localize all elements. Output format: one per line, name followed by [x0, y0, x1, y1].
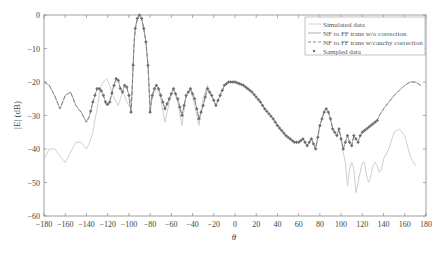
marker-dot [164, 108, 166, 110]
marker-dot [374, 121, 376, 123]
marker-dot [208, 91, 210, 93]
x-tick-label: 20 [252, 220, 260, 229]
marker-dot [109, 101, 111, 103]
marker-dot [183, 104, 185, 106]
legend-entry: NF to FF trans w/cauchy correction [323, 39, 423, 47]
marker-dot [319, 124, 321, 126]
marker-dot [107, 103, 109, 105]
marker-dot [160, 94, 162, 96]
marker-dot [321, 118, 323, 120]
marker-dot [121, 91, 123, 93]
x-tick-label: 80 [316, 220, 324, 229]
marker-dot [359, 135, 361, 137]
marker-dot [278, 127, 280, 129]
marker-dot [270, 115, 272, 117]
marker-dot [315, 148, 317, 150]
marker-dot [302, 138, 304, 140]
x-axis-label: θ [232, 232, 237, 242]
x-tick-label: −20 [208, 220, 221, 229]
marker-dot [219, 94, 221, 96]
marker-dot [181, 114, 183, 116]
marker-dot [253, 93, 255, 95]
marker-dot [168, 98, 170, 100]
marker-dot [225, 83, 227, 85]
marker-dot [283, 132, 285, 134]
marker-dot [372, 123, 374, 125]
marker-dot [251, 91, 253, 93]
marker-dot [189, 88, 191, 90]
marker-dot [298, 141, 300, 143]
marker-dot [128, 94, 130, 96]
marker-dot [185, 94, 187, 96]
marker-dot [221, 89, 223, 91]
marker-dot [376, 119, 378, 121]
marker-dot [194, 98, 196, 100]
marker-dot [196, 108, 198, 110]
marker-dot [153, 88, 155, 90]
x-tick-label: 120 [356, 220, 368, 229]
x-tick-label: 100 [335, 220, 347, 229]
marker-dot [149, 111, 151, 113]
marker-dot [104, 101, 106, 103]
legend-swatch-marker [313, 50, 315, 52]
marker-dot [342, 148, 344, 150]
marker-dot [130, 111, 132, 113]
marker-dot [336, 135, 338, 137]
marker-dot [170, 93, 172, 95]
marker-dot [353, 135, 355, 137]
marker-dot [247, 88, 249, 90]
x-tick-label: 160 [399, 220, 411, 229]
marker-dot [310, 138, 312, 140]
y-tick-label: −20 [27, 78, 40, 87]
marker-dot [289, 138, 291, 140]
marker-dot [92, 101, 94, 103]
marker-dot [155, 84, 157, 86]
marker-dot [338, 128, 340, 130]
marker-dot [344, 141, 346, 143]
marker-dot [217, 99, 219, 101]
x-tick-label: −60 [165, 220, 178, 229]
y-tick-label: −50 [27, 179, 40, 188]
x-tick-label: −80 [144, 220, 157, 229]
x-tick-label: −100 [121, 220, 138, 229]
marker-dot [308, 141, 310, 143]
marker-dot [174, 93, 176, 95]
marker-dot [132, 64, 134, 66]
marker-dot [94, 94, 96, 96]
marker-dot [332, 128, 334, 130]
marker-dot [145, 41, 147, 43]
marker-dot [179, 106, 181, 108]
marker-dot [117, 79, 119, 81]
marker-dot [249, 89, 251, 91]
marker-dot [172, 88, 174, 90]
marker-dot [291, 140, 293, 142]
marker-dot [259, 101, 261, 103]
x-tick-label: 140 [378, 220, 390, 229]
marker-dot [317, 136, 319, 138]
marker-dot [200, 111, 202, 113]
marker-dot [346, 135, 348, 137]
marker-dot [147, 64, 149, 66]
y-tick-label: 0 [36, 11, 40, 20]
marker-dot [206, 88, 208, 90]
marker-dot [100, 90, 102, 92]
marker-dot [143, 27, 145, 29]
x-tick-label: 40 [273, 220, 281, 229]
marker-dot [266, 110, 268, 112]
marker-dot [90, 110, 92, 112]
marker-dot [370, 124, 372, 126]
marker-dot [211, 94, 213, 96]
marker-dot [261, 104, 263, 106]
marker-dot [115, 78, 117, 80]
marker-dot [245, 86, 247, 88]
marker-dot [300, 140, 302, 142]
marker-dot [274, 121, 276, 123]
marker-dot [272, 118, 274, 120]
marker-dot [215, 104, 217, 106]
y-tick-label: −10 [27, 45, 40, 54]
marker-dot [257, 98, 259, 100]
marker-dot [357, 141, 359, 143]
marker-dot [340, 138, 342, 140]
x-tick-label: −160 [57, 220, 74, 229]
marker-dot [136, 17, 138, 19]
